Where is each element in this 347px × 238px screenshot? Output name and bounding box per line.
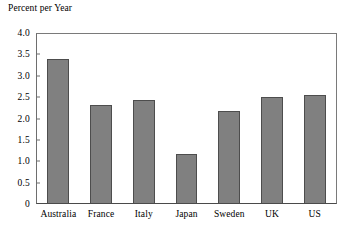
y-axis-tick-label: 1.5 [18, 135, 30, 145]
bar-us[interactable] [304, 95, 326, 203]
bar-slot [37, 34, 80, 203]
bar-italy[interactable] [133, 100, 155, 203]
x-axis-labels: AustraliaFranceItalyJapanSwedenUKUS [37, 207, 336, 227]
y-axis-tick-label: 1.0 [18, 156, 30, 166]
bar-japan[interactable] [176, 154, 198, 203]
y-axis-tick-label: 3.5 [18, 49, 30, 59]
y-axis-tick-label: 2.5 [18, 92, 30, 102]
y-axis-tick-label: 0 [25, 199, 30, 209]
y-axis: 4.03.53.02.52.01.51.00.50 [0, 33, 36, 204]
x-axis-label-france: France [80, 207, 123, 227]
x-axis-label-uk: UK [251, 207, 294, 227]
x-axis-label-sweden: Sweden [208, 207, 251, 227]
bar-slot [251, 34, 294, 203]
y-axis-tick-label: 3.0 [18, 71, 30, 81]
bars-container [37, 34, 336, 203]
bar-sweden[interactable] [218, 111, 240, 203]
x-axis-label-australia: Australia [37, 207, 80, 227]
chart-title: Percent per Year [8, 2, 72, 14]
x-axis-label-japan: Japan [165, 207, 208, 227]
bar-slot [165, 34, 208, 203]
y-axis-tick-label: 2.0 [18, 114, 30, 124]
bar-slot [208, 34, 251, 203]
bar-uk[interactable] [261, 97, 283, 203]
bar-france[interactable] [90, 105, 112, 203]
bar-slot [80, 34, 123, 203]
x-axis-label-us: US [293, 207, 336, 227]
y-axis-tick-label: 0.5 [18, 178, 30, 188]
y-axis-tick-label: 4.0 [18, 28, 30, 38]
bar-slot [293, 34, 336, 203]
bar-chart-figure: Percent per Year 4.03.53.02.52.01.51.00.… [0, 0, 347, 238]
bar-australia[interactable] [47, 59, 69, 203]
bar-slot [122, 34, 165, 203]
x-axis-label-italy: Italy [122, 207, 165, 227]
